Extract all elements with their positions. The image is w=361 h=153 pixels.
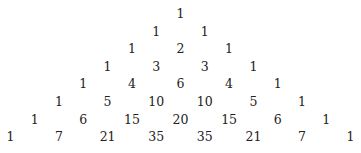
triangle-cell: 15 (124, 111, 140, 126)
triangle-cell: 21 (245, 129, 261, 144)
triangle-cell: 2 (177, 41, 185, 56)
triangle-cell: 10 (148, 94, 164, 109)
triangle-cell: 1 (128, 41, 136, 56)
triangle-cell: 1 (249, 58, 257, 73)
triangle-cell: 6 (274, 111, 282, 126)
triangle-cell: 1 (298, 94, 306, 109)
triangle-cell: 35 (148, 129, 164, 144)
triangle-cell: 35 (197, 129, 213, 144)
triangle-cell: 3 (201, 58, 209, 73)
triangle-cell: 1 (177, 6, 185, 21)
triangle-cell: 1 (6, 129, 14, 144)
triangle-cell: 5 (249, 94, 257, 109)
triangle-cell: 1 (225, 41, 233, 56)
triangle-cell: 1 (55, 94, 63, 109)
triangle-cell: 4 (225, 76, 233, 91)
triangle-cell: 20 (173, 111, 189, 126)
triangle-cell: 1 (322, 111, 330, 126)
triangle-cell: 6 (79, 111, 87, 126)
triangle-cell: 1 (104, 58, 112, 73)
triangle-cell: 4 (128, 76, 136, 91)
triangle-cell: 7 (55, 129, 63, 144)
triangle-cell: 1 (347, 129, 355, 144)
triangle-cell: 5 (104, 94, 112, 109)
triangle-cell: 21 (100, 129, 116, 144)
triangle-cell: 10 (197, 94, 213, 109)
triangle-cell: 1 (201, 23, 209, 38)
triangle-cell: 1 (152, 23, 160, 38)
triangle-cell: 15 (221, 111, 237, 126)
triangle-cell: 1 (31, 111, 39, 126)
triangle-cell: 1 (274, 76, 282, 91)
triangle-cell: 3 (152, 58, 160, 73)
triangle-cell: 7 (298, 129, 306, 144)
triangle-cell: 6 (177, 76, 185, 91)
triangle-cell: 1 (79, 76, 87, 91)
